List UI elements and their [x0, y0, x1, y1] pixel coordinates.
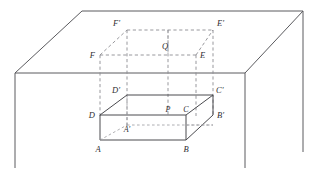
label-Q: Q	[162, 41, 168, 51]
label-B: B	[183, 144, 188, 154]
label-P: P	[165, 105, 171, 114]
label-A-prime: A′	[123, 125, 131, 134]
label-F-prime: F′	[112, 18, 120, 28]
label-D-prime: D′	[111, 85, 120, 95]
dashed-cube-group	[100, 30, 213, 126]
label-F: F	[89, 50, 96, 60]
label-D: D	[88, 110, 96, 120]
label-E-prime: E′	[216, 18, 224, 28]
label-C-prime: C′	[216, 85, 224, 95]
box-edge-C-Cprime	[186, 95, 213, 115]
geometry-diagram-svg: F′ E′ F Q E D′ C′ D P C B′ A′ A B	[0, 0, 318, 170]
label-B-prime: B′	[217, 110, 224, 120]
ceiling-left-diagonal-edge	[15, 11, 82, 73]
geometry-figure-container: F′ E′ F Q E D′ C′ D P C B′ A′ A B	[0, 0, 318, 170]
label-E: E	[199, 50, 206, 60]
vertex-labels-group: F′ E′ F Q E D′ C′ D P C B′ A′ A B	[88, 18, 224, 154]
label-A: A	[94, 144, 101, 154]
box-edge-D-Dprime	[100, 95, 127, 115]
cube-edge-F-Fprime	[100, 30, 127, 55]
label-C: C	[183, 105, 189, 114]
room-outline-group	[15, 11, 303, 168]
ceiling-right-diagonal-edge	[245, 11, 303, 73]
box-edge-B-Bprime-right-diagonal	[186, 115, 213, 140]
